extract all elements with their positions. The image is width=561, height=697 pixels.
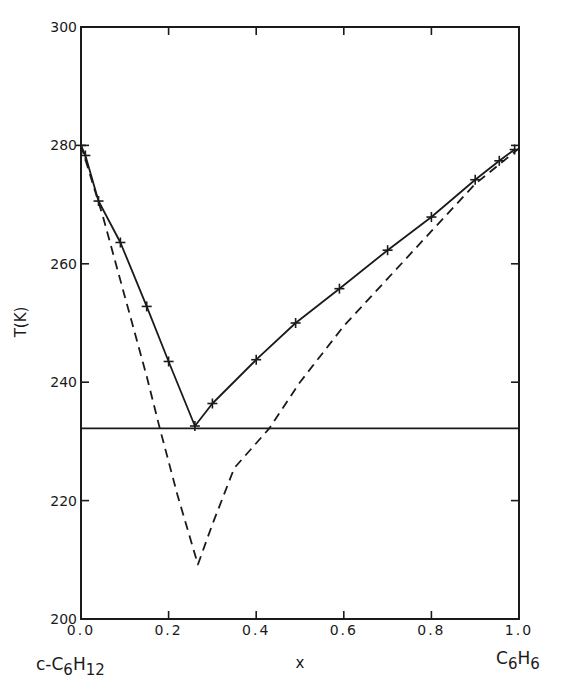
dashed-curve	[81, 145, 519, 564]
x-tick-label: 0.0	[67, 622, 95, 638]
y-tick-label: 300	[50, 19, 77, 35]
series-experimental-liquidus	[76, 140, 520, 431]
y-tick-labels: 200220240260280300	[50, 19, 77, 627]
data-series	[76, 140, 520, 564]
x-left-component-label: c-C6H12	[36, 654, 105, 679]
solid-curve	[81, 145, 515, 426]
series-ideal-solution-liquidus	[81, 145, 519, 564]
phase-diagram-chart: 200220240260280300 0.00.20.40.60.81.0 T(…	[0, 0, 561, 697]
x-axis-label: x	[296, 654, 305, 672]
y-tick-label: 260	[50, 256, 77, 272]
x-tick-labels: 0.00.20.40.60.81.0	[67, 622, 533, 638]
x-tick-label: 0.2	[154, 622, 182, 638]
x-tick-label: 1.0	[505, 622, 533, 638]
x-right-component-label: C6H6	[496, 648, 540, 673]
y-tick-label: 220	[50, 493, 77, 509]
y-axis-label: T(K)	[12, 307, 30, 339]
x-tick-label: 0.4	[242, 622, 270, 638]
y-tick-label: 280	[50, 137, 77, 153]
x-tick-label: 0.8	[417, 622, 445, 638]
x-tick-label: 0.6	[330, 622, 358, 638]
y-tick-label: 240	[50, 374, 77, 390]
